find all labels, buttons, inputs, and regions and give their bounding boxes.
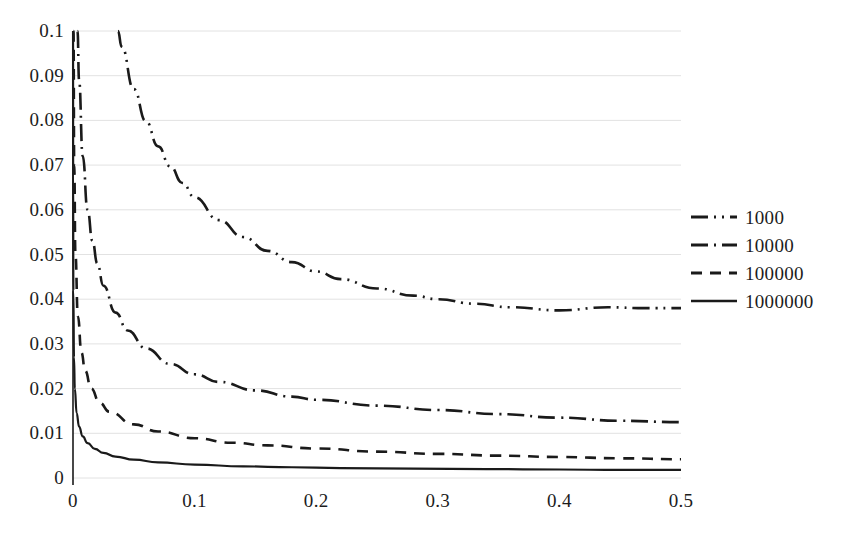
y-tick-label: 0.02	[6, 378, 64, 400]
y-tick-label: 0.05	[6, 244, 64, 266]
y-tick-label: 0	[6, 467, 64, 489]
x-tick-label: 0.5	[651, 490, 711, 512]
legend-swatch-dashed-icon	[690, 266, 738, 280]
legend-item[interactable]: 100000	[690, 259, 860, 287]
series-line-10000	[78, 31, 682, 422]
y-tick-label: 0.1	[6, 20, 64, 42]
legend-item-label: 10000	[745, 236, 794, 255]
legend-item-label: 100000	[745, 264, 804, 283]
chart-figure: 00.010.020.030.040.050.060.070.080.090.1…	[0, 0, 863, 539]
y-tick-label: 0.01	[6, 422, 64, 444]
y-tick-label: 0.06	[6, 199, 64, 221]
x-tick-label: 0.3	[408, 490, 468, 512]
legend-swatch-dash-dot-icon	[690, 238, 738, 252]
legend-item[interactable]: 10000	[690, 231, 860, 259]
gridlines	[73, 31, 681, 478]
y-tick-label: 0.08	[6, 109, 64, 131]
chart-legend: 1000 10000 100000 1000000	[690, 203, 860, 315]
legend-item[interactable]: 1000000	[690, 287, 860, 315]
series-line-1000000	[73, 31, 681, 470]
x-tick-label: 0.4	[529, 490, 589, 512]
y-tick-label: 0.03	[6, 333, 64, 355]
legend-item[interactable]: 1000	[690, 203, 860, 231]
legend-item-label: 1000000	[745, 292, 814, 311]
legend-swatch-solid-icon	[690, 294, 738, 308]
x-tick-label: 0.2	[286, 490, 346, 512]
series-lines	[73, 31, 681, 470]
y-tick-label: 0.09	[6, 65, 64, 87]
x-tick-label: 0.1	[165, 490, 225, 512]
legend-item-label: 1000	[745, 208, 784, 227]
series-line-100000	[73, 31, 681, 459]
x-tick-label: 0	[43, 490, 103, 512]
y-tick-label: 0.04	[6, 288, 64, 310]
series-line-1000	[118, 31, 681, 310]
y-tick-label: 0.07	[6, 154, 64, 176]
legend-swatch-dash-dot-dot-icon	[690, 210, 738, 224]
